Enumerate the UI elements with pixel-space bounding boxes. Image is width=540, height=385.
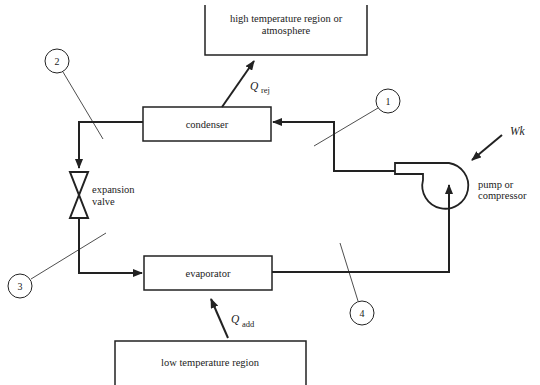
refrigeration-cycle-diagram: high temperature region or atmosphere co…: [0, 0, 540, 385]
state-point-4-label: 4: [360, 308, 365, 319]
heat-added-arrow: Q add: [211, 299, 255, 338]
compressor-label-line2: compressor: [478, 190, 527, 201]
high-region-label-line2: atmosphere: [262, 25, 311, 36]
low-temperature-region: low temperature region: [115, 341, 306, 385]
evaporator: evaporator: [144, 256, 272, 290]
evaporator-label: evaporator: [186, 268, 231, 279]
compressor-label-line1: pump or: [478, 179, 514, 190]
expansion-valve-label-line1: expansion: [92, 184, 135, 195]
q-add-subscript: add: [242, 319, 255, 329]
work-input-arrow: Wk: [472, 125, 526, 160]
pipe-valve-to-evaporator: [79, 218, 142, 273]
state-point-1: 1: [314, 89, 400, 146]
state-point-3-label: 3: [18, 281, 23, 292]
state-point-2: 2: [45, 49, 103, 139]
state-point-2-label: 2: [55, 56, 60, 67]
condenser: condenser: [143, 107, 271, 141]
q-add-symbol: Q: [231, 313, 240, 325]
q-rej-subscript: rej: [261, 85, 270, 95]
q-rej-symbol: Q: [250, 80, 259, 92]
heat-rejected-arrow: Q rej: [222, 61, 270, 107]
high-temperature-region: high temperature region or atmosphere: [205, 5, 367, 55]
pipe-evaporator-to-compressor: [272, 185, 449, 272]
compressor: pump or compressor: [395, 163, 527, 209]
low-region-label: low temperature region: [161, 357, 260, 368]
work-label: Wk: [510, 125, 526, 137]
pipe-compressor-to-condenser: [273, 122, 395, 171]
state-point-1-label: 1: [386, 96, 391, 107]
state-point-4: 4: [340, 243, 374, 325]
pipe-condenser-to-valve: [79, 122, 143, 168]
state-point-3: 3: [8, 233, 106, 298]
expansion-valve-label-line2: valve: [92, 196, 115, 207]
condenser-label: condenser: [186, 119, 229, 130]
expansion-valve: expansion valve: [70, 172, 135, 218]
high-region-label-line1: high temperature region or: [230, 13, 343, 24]
